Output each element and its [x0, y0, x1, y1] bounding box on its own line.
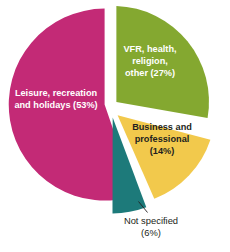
pie-chart: Leisure, recreation and holidays (53%) V…: [0, 0, 230, 252]
pie-label-vfr-line3: other (27%): [125, 68, 175, 78]
pie-label-leisure-line2: and holidays (53%): [14, 100, 97, 110]
pie-label-business-line2: professional: [135, 134, 190, 144]
pie-label-vfr-line2: religion,: [132, 56, 168, 66]
pie-chart-canvas: Leisure, recreation and holidays (53%) V…: [0, 0, 230, 252]
pie-label-vfr-line1: VFR, health,: [123, 44, 176, 54]
pie-label-not-specified-line1: Not specified: [124, 215, 178, 226]
pie-label-not-specified-line2: (6%): [141, 227, 161, 238]
pie-label-business-line1: Business and: [132, 122, 192, 132]
pie-label-business-line3: (14%): [150, 146, 175, 156]
pie-label-not-specified: Not specified (6%): [124, 215, 178, 238]
pie-label-leisure-line1: Leisure, recreation: [15, 88, 98, 98]
